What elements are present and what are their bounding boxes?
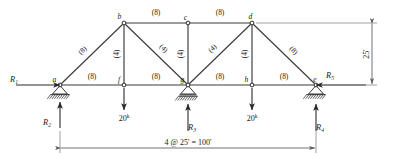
member-label-a-b: (8) [76, 44, 89, 57]
support-a [47, 86, 69, 99]
member-label-b-c: (8) [152, 8, 161, 17]
reaction-r3: R3 [187, 104, 196, 133]
load-label-f: 20k [119, 113, 130, 123]
member-label-d-e: (8) [288, 44, 301, 57]
span-dimension-label: 4 @ 25' = 100' [165, 138, 212, 147]
node-label-g: g [181, 75, 185, 84]
applied-load-f: 20k [119, 88, 130, 123]
support-g [175, 86, 197, 101]
joint-f [122, 83, 126, 87]
reaction-label-r3: R3 [187, 123, 196, 133]
truss-members [60, 23, 316, 85]
span-dimension: 4 @ 25' = 100' [60, 131, 316, 153]
node-label-c: c [184, 13, 188, 22]
member-label-c-d: (8) [216, 8, 225, 17]
node-label-d: d [249, 12, 253, 21]
member-label-c-g: (4) [176, 49, 185, 58]
member-label-d-h: (4) [240, 49, 249, 58]
height-dimension-label: 25' [362, 49, 371, 59]
reaction-r5: R5 [316, 71, 366, 85]
member-label-g-d: (4) [206, 42, 219, 55]
dimension-lines: 4 @ 25' = 100'25' [60, 23, 377, 153]
load-label-h: 20k [247, 113, 258, 123]
node-label-b: b [118, 12, 122, 21]
member-label-a-f: (8) [88, 72, 97, 81]
joint-c [186, 21, 190, 25]
reaction-r4: R4 [315, 104, 324, 133]
applied-load-h: 20k [247, 88, 258, 123]
node-label-e: e [313, 75, 317, 84]
member-label-h-e: (8) [280, 72, 289, 81]
member-label-b-f: (4) [112, 49, 121, 58]
reaction-r2: R2 [42, 102, 60, 128]
member-label-g-h: (8) [216, 72, 225, 81]
joint-b [122, 21, 126, 25]
reaction-label-r2: R2 [42, 118, 51, 128]
joint-d [250, 21, 254, 25]
truss-diagram: (8)(8)(8)(8)(8)(8)(8)(8)(4)(4)(4)(4)(4) … [0, 0, 394, 164]
reaction-label-r1: R1 [9, 75, 18, 85]
reaction-label-r5: R5 [325, 71, 334, 81]
joint-g [186, 83, 190, 87]
support-e [303, 86, 325, 99]
node-label-h: h [245, 75, 249, 84]
joint-h [250, 83, 254, 87]
member-label-f-g: (8) [152, 72, 161, 81]
truss-supports [47, 86, 325, 101]
member-label-b-g: (4) [158, 42, 171, 55]
node-label-a: a [53, 75, 57, 84]
node-label-f: f [118, 75, 121, 84]
